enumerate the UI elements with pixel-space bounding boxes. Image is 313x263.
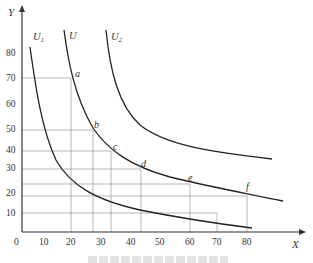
svg-text:10: 10 (6, 208, 16, 218)
svg-text:70: 70 (6, 73, 16, 83)
y-axis-arrow-icon (19, 5, 25, 12)
x-axis-arrow-icon (299, 229, 306, 235)
point-labels: a b c d e f (75, 68, 250, 192)
point-e: e (188, 172, 193, 183)
svg-text:30: 30 (96, 237, 106, 247)
axes (22, 9, 303, 232)
point-d: d (141, 158, 147, 169)
curve-label-u: U (69, 30, 78, 41)
x-tick-labels: 10 20 30 40 50 60 70 80 (39, 237, 252, 247)
curve-label-u2: U2 (111, 31, 123, 44)
y-tick-labels: 80 70 60 50 40 30 20 10 (6, 48, 16, 218)
point-c: c (113, 141, 118, 152)
origin-label: 0 (14, 237, 19, 247)
curve-u (64, 30, 283, 201)
curve-u2 (106, 30, 272, 159)
point-a: a (75, 68, 80, 79)
curve-label-u1: U1 (33, 31, 44, 44)
svg-text:50: 50 (155, 237, 165, 247)
svg-text:40: 40 (126, 237, 136, 247)
svg-text:40: 40 (6, 145, 16, 155)
svg-text:20: 20 (6, 188, 16, 198)
svg-text:60: 60 (185, 237, 195, 247)
svg-text:20: 20 (66, 237, 76, 247)
y-axis-label: Y (8, 6, 16, 18)
indifference-curve-chart: Y X 0 80 70 60 50 40 30 20 10 10 20 30 4… (0, 0, 313, 263)
point-f: f (246, 181, 250, 192)
svg-text:60: 60 (6, 99, 16, 109)
svg-text:70: 70 (212, 237, 222, 247)
figure-caption-truncated (88, 256, 228, 263)
svg-text:80: 80 (6, 48, 16, 58)
point-b: b (94, 119, 99, 130)
svg-text:50: 50 (6, 124, 16, 134)
svg-text:80: 80 (242, 237, 252, 247)
svg-text:30: 30 (6, 163, 16, 173)
x-axis-label: X (291, 238, 300, 250)
svg-text:10: 10 (39, 237, 49, 247)
